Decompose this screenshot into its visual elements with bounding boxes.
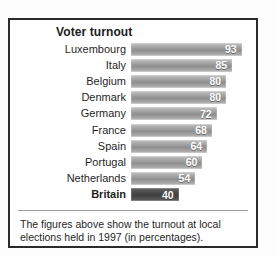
bar-track: 54 [131, 172, 250, 185]
bar-track: 72 [131, 107, 250, 120]
bar-row: Italy 85 [14, 57, 250, 73]
bar-value-denmark: 80 [210, 92, 227, 103]
chart-caption: The figures above show the turnout at lo… [10, 211, 256, 244]
bar-row: Germany 72 [14, 106, 250, 122]
bar-value-germany: 72 [200, 109, 217, 120]
bar-belgium: 80 [131, 75, 226, 88]
category-label-italy: Italy [14, 60, 131, 71]
bar-track: 85 [131, 59, 250, 72]
chart-figure: Voter turnout Luxembourg 93 Italy 85 [0, 0, 277, 256]
bar-value-italy: 85 [215, 60, 232, 71]
bar-row: Netherlands 54 [14, 171, 250, 187]
bar-denmark: 80 [131, 91, 226, 104]
bar-netherlands: 54 [131, 172, 195, 185]
bar-row: Luxembourg 93 [14, 41, 250, 57]
category-label-spain: Spain [14, 141, 131, 152]
bar-spain: 64 [131, 140, 207, 153]
bar-luxembourg: 93 [131, 43, 242, 56]
bar-value-netherlands: 54 [179, 173, 196, 184]
category-label-netherlands: Netherlands [14, 173, 131, 184]
bar-france: 68 [131, 124, 212, 137]
bar-row: Belgium 80 [14, 73, 250, 89]
bar-row: Denmark 80 [14, 90, 250, 106]
bar-value-britain: 40 [162, 190, 179, 201]
bar-track: 40 [131, 188, 250, 201]
bar-row: Spain 64 [14, 138, 250, 154]
bar-row: Britain 40 [14, 187, 250, 203]
bar-value-france: 68 [195, 125, 212, 136]
category-label-france: France [14, 125, 131, 136]
bar-value-belgium: 80 [210, 76, 227, 87]
bar-track: 93 [131, 43, 250, 56]
category-label-luxembourg: Luxembourg [14, 44, 131, 55]
bar-row: Portugal 60 [14, 154, 250, 170]
bar-track: 68 [131, 124, 250, 137]
category-label-belgium: Belgium [14, 76, 131, 87]
bar-value-spain: 64 [190, 141, 207, 152]
bar-britain: 40 [131, 188, 179, 201]
category-label-britain: Britain [14, 189, 131, 200]
category-label-germany: Germany [14, 108, 131, 119]
bar-italy: 85 [131, 59, 232, 72]
category-label-portugal: Portugal [14, 157, 131, 168]
bar-track: 60 [131, 156, 250, 169]
bar-track: 80 [131, 91, 250, 104]
category-label-denmark: Denmark [14, 92, 131, 103]
bar-track: 80 [131, 75, 250, 88]
chart-panel: Voter turnout Luxembourg 93 Italy 85 [8, 18, 258, 248]
chart-title: Voter turnout [10, 25, 256, 39]
bar-portugal: 60 [131, 156, 202, 169]
bar-germany: 72 [131, 107, 217, 120]
bar-row: France 68 [14, 122, 250, 138]
bar-value-luxembourg: 93 [225, 44, 242, 55]
bar-chart-plot-area: Luxembourg 93 Italy 85 Belgium [10, 41, 256, 203]
bar-value-portugal: 60 [186, 157, 203, 168]
bar-track: 64 [131, 140, 250, 153]
